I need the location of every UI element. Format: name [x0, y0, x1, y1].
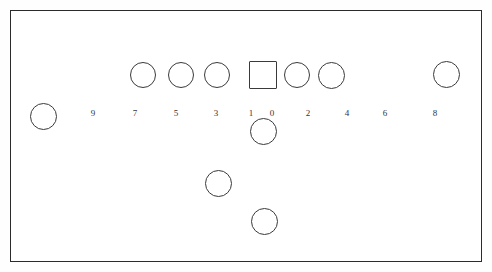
axis-label-2: 2 — [301, 108, 315, 118]
axis-label-3: 3 — [209, 108, 223, 118]
axis-label-1: 1 — [244, 108, 258, 118]
circle-lower-left[interactable] — [205, 170, 232, 197]
circle-row-8[interactable] — [433, 61, 460, 88]
circle-row-4[interactable] — [318, 62, 345, 89]
circle-row-2[interactable] — [284, 62, 310, 88]
axis-label-0: 0 — [265, 108, 279, 118]
circle-below-center[interactable] — [250, 118, 277, 145]
circle-far-left[interactable] — [30, 103, 57, 130]
axis-label-4: 4 — [340, 108, 354, 118]
axis-label-8: 8 — [428, 108, 442, 118]
circle-bottom-center[interactable] — [251, 208, 278, 235]
axis-label-9: 9 — [86, 108, 100, 118]
diagram-canvas: 9753102468 — [0, 0, 492, 272]
circle-row-9[interactable] — [130, 62, 156, 88]
square-row-center[interactable] — [249, 61, 277, 89]
circle-row-5[interactable] — [204, 62, 230, 88]
axis-label-6: 6 — [378, 108, 392, 118]
axis-label-5: 5 — [169, 108, 183, 118]
diagram-frame-border — [10, 10, 482, 262]
axis-label-7: 7 — [128, 108, 142, 118]
circle-row-7[interactable] — [168, 62, 194, 88]
